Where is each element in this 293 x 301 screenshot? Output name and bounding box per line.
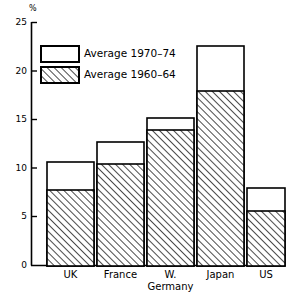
x-tick-label-w-germany-line1: W. (165, 269, 177, 280)
bar-france (97, 142, 144, 266)
x-tick-label-france: France (95, 269, 146, 281)
bar-us (247, 188, 285, 266)
x-tick-label-uk: UK (45, 269, 96, 281)
bar-japan (197, 46, 244, 266)
x-tick-label-japan: Japan (195, 269, 246, 281)
stacked-bar-chart: % 25 20 15 10 5 0 (0, 0, 293, 301)
x-tick-label-w-germany: W.Germany (145, 269, 196, 293)
x-tick-label-w-germany-line2: Germany (145, 281, 196, 293)
legend-label-1970-74: Average 1970–74 (84, 47, 176, 60)
chart-plot-area (0, 0, 293, 301)
bar-uk (47, 162, 94, 266)
legend-swatch-hatched (41, 67, 79, 83)
x-tick-label-us: US (243, 269, 289, 281)
bar-w-germany (147, 118, 194, 266)
legend-label-1960-64: Average 1960–64 (84, 68, 176, 81)
y-axis (32, 22, 38, 266)
legend-swatch-white (41, 46, 79, 62)
